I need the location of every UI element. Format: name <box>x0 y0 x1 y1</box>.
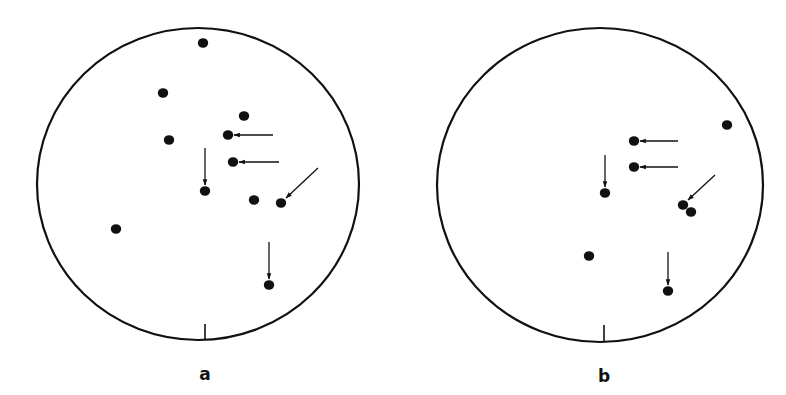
data-point <box>629 162 639 172</box>
data-point <box>223 130 233 140</box>
data-point <box>686 207 696 217</box>
data-point <box>198 38 208 48</box>
data-point <box>239 111 249 121</box>
data-point <box>228 157 238 167</box>
arrow-icon <box>688 175 715 200</box>
data-point <box>276 198 286 208</box>
data-point <box>249 195 259 205</box>
net-circle <box>437 28 763 342</box>
data-point <box>663 286 673 296</box>
data-point <box>158 88 168 98</box>
panel-b-label: b <box>598 368 610 385</box>
panel-b-diagram <box>437 28 763 342</box>
data-point <box>584 251 594 261</box>
data-point <box>722 120 732 130</box>
arrow-icon <box>286 168 318 198</box>
data-point <box>629 136 639 146</box>
panel-a-diagram <box>37 28 359 340</box>
data-point <box>111 224 121 234</box>
data-point <box>164 135 174 145</box>
data-point <box>200 186 210 196</box>
data-point <box>600 188 610 198</box>
net-circle <box>37 28 359 340</box>
data-point <box>264 280 274 290</box>
stereonet-figure <box>0 0 786 395</box>
panel-a-label: a <box>199 366 210 383</box>
data-point <box>678 200 688 210</box>
